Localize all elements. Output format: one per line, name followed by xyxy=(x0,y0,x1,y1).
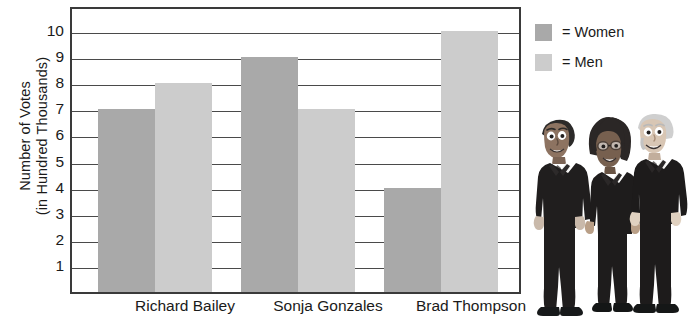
legend-swatch-women xyxy=(535,24,552,41)
y-tick-label-7: 7 xyxy=(28,101,64,117)
y-tick-label-2: 2 xyxy=(28,232,64,248)
bar-women-1 xyxy=(241,57,298,292)
legend-swatch-men xyxy=(535,54,552,71)
y-tick-label-4: 4 xyxy=(28,180,64,196)
person-right xyxy=(630,114,688,313)
bar-men-1 xyxy=(298,109,355,292)
y-tick-label-1: 1 xyxy=(28,258,64,274)
legend-item-men: = Men xyxy=(535,54,685,71)
x-axis-label-0: Richard Bailey xyxy=(103,297,267,315)
legend-item-women: = Women xyxy=(535,24,685,41)
chart-legend: = Women= Men xyxy=(535,24,685,84)
y-tick-label-9: 9 xyxy=(28,49,64,65)
y-tick-label-10: 10 xyxy=(28,23,64,39)
bar-men-2 xyxy=(441,31,498,292)
y-tick-label-6: 6 xyxy=(28,127,64,143)
plot-area xyxy=(70,7,521,294)
bar-men-0 xyxy=(155,83,212,292)
bar-women-2 xyxy=(384,188,441,292)
three-candidates-illustration xyxy=(528,108,694,324)
y-tick-label-5: 5 xyxy=(28,154,64,170)
bar-women-0 xyxy=(98,109,155,292)
y-tick-label-8: 8 xyxy=(28,75,64,91)
x-axis-label-1: Sonja Gonzales xyxy=(246,297,410,315)
person-left xyxy=(534,120,592,316)
y-tick-label-3: 3 xyxy=(28,206,64,222)
legend-label-men: = Men xyxy=(562,55,603,70)
bar-chart-figure: Number of Votes (in Hundred Thousands) 1… xyxy=(0,0,694,324)
legend-label-women: = Women xyxy=(562,25,624,40)
